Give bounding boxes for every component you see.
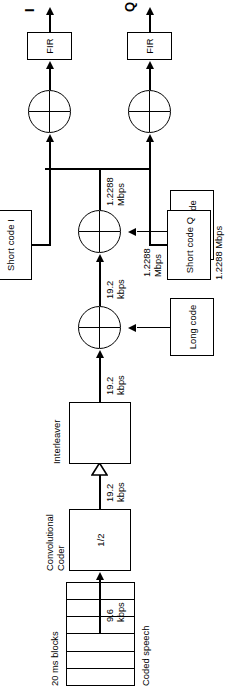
interleaver-label: Interleaver — [52, 420, 63, 464]
convolutional-coder-block: 1/2 — [69, 509, 131, 571]
rate-speech-value: 9.6 — [105, 609, 116, 622]
wire-walsh-out — [99, 168, 101, 210]
block-diagram-canvas: 20 ms blocks Coded speech 9.6 kbps 1/2 C… — [0, 0, 235, 700]
convolutional-coder-label-line1: Convolutional — [44, 514, 55, 571]
coded-speech-cell — [67, 668, 134, 685]
rate-coder-value: 19.2 — [105, 484, 116, 502]
wire-fir-q-out — [149, 12, 151, 32]
rate-coder-unit: kbps — [116, 482, 127, 502]
arrow-speech-to-coder — [96, 572, 104, 580]
figure-root: 20 ms blocks Coded speech 9.6 kbps 1/2 C… — [0, 0, 235, 700]
short-code-q-block: Short code Q — [167, 210, 211, 280]
fir-i-block: FIR — [27, 32, 72, 60]
wire-shortcode-i-down — [32, 244, 49, 246]
rate-short-code-q-unit: Mbps — [213, 226, 224, 249]
rate-longcode-out-unit: kbps — [116, 279, 127, 299]
wire-longcode-to-walsh-mixer — [99, 260, 101, 306]
wire-shortcode-q-up — [149, 244, 167, 246]
fir-i-label: FIR — [44, 38, 55, 53]
interleaver-input-marker-icon — [91, 462, 108, 476]
output-q-label: Q — [125, 2, 136, 12]
wire-shortcode-q-right — [149, 168, 151, 246]
wire-walsh-up — [137, 231, 170, 233]
coded-speech-label: Coded speech — [141, 626, 152, 686]
rate-walsh-out-value: 1.2288 — [105, 177, 116, 206]
mixer-i — [28, 90, 71, 133]
fir-q-label: FIR — [144, 38, 155, 53]
wire-mixer-i-to-fir — [49, 66, 51, 90]
mixer-q — [128, 90, 171, 133]
short-code-q-label: Short code Q — [184, 217, 195, 273]
rate-walsh-in-unit: Mbps — [153, 254, 164, 277]
wire-shortcode-i-right — [49, 168, 51, 246]
arrow-mixer-q-to-fir — [146, 61, 154, 69]
fir-q-block: FIR — [127, 32, 172, 60]
twenty-ms-blocks-label: 20 ms blocks — [50, 631, 61, 686]
wire-split-to-mixer-i — [49, 140, 51, 170]
arrow-fir-i-out — [46, 7, 54, 15]
arrow-mixer-i-to-fir — [46, 61, 54, 69]
convolutional-coder-label-line2: Coder — [55, 545, 66, 571]
rate-short-code-q-value: 1.2288 — [213, 251, 224, 280]
rate-speech-unit: kbps — [116, 602, 127, 622]
arrow-walsh-into-mixer — [128, 228, 136, 236]
output-i-label: I — [25, 8, 36, 12]
mixer-walsh — [78, 210, 121, 253]
long-code-label: Long code — [187, 305, 198, 350]
arrow-longcode-to-walsh-mixer — [96, 254, 104, 262]
short-code-i-label: Short code I — [5, 219, 16, 271]
rate-walsh-out-unit: Mbps — [116, 183, 127, 206]
rate-interleaver-unit: kbps — [116, 375, 127, 395]
wire-split-to-mixer-q — [149, 140, 151, 170]
convolutional-coder-rate: 1/2 — [95, 533, 106, 546]
interleaver-block — [69, 402, 131, 464]
arrow-longcode-into-mixer — [128, 324, 136, 332]
rate-interleaver-value: 19.2 — [105, 377, 116, 395]
wire-interleaver-to-longcode-mixer — [99, 356, 101, 402]
wire-mixer-q-to-fir — [149, 66, 151, 90]
wire-speech-to-coder — [99, 578, 101, 634]
wire-longcode-up — [137, 327, 170, 329]
arrow-split-to-mixer-i — [46, 134, 54, 142]
coded-speech-cell — [67, 651, 134, 668]
rate-walsh-in-value: 1.2288 — [142, 248, 153, 277]
coded-speech-cell — [67, 633, 134, 650]
rate-short-code-q: 1.2288 Mbps — [214, 226, 225, 280]
mixer-longcode — [78, 306, 121, 349]
wire-fir-i-out — [49, 12, 51, 32]
arrow-interleaver-to-longcode-mixer — [96, 350, 104, 358]
rate-longcode-out-value: 19.2 — [105, 281, 116, 299]
long-code-block: Long code — [170, 298, 214, 356]
wire-split-bus — [45, 168, 151, 170]
arrow-fir-q-out — [146, 7, 154, 15]
arrow-split-to-mixer-q — [146, 134, 154, 142]
short-code-i-block: Short code I — [0, 210, 32, 280]
